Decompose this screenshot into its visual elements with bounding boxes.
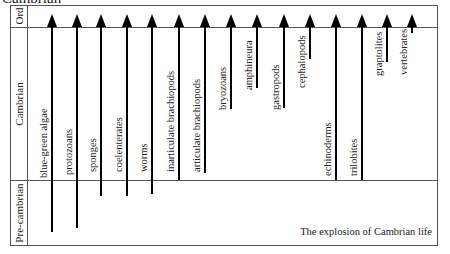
arrow-line-articulate-brachiopods bbox=[204, 25, 206, 173]
taxon-label-worms: worms bbox=[138, 143, 149, 172]
arrow-line-graptolites bbox=[386, 25, 388, 62]
arrowhead-icon bbox=[47, 14, 57, 27]
arrowhead-icon bbox=[252, 14, 262, 27]
arrow-line-protozoans bbox=[76, 25, 78, 228]
arrowhead-icon bbox=[174, 14, 184, 27]
taxon-label-graptolites: graptolites bbox=[373, 32, 384, 76]
arrow-line-amphineura bbox=[256, 25, 258, 88]
arrowhead-icon bbox=[226, 14, 236, 27]
arrow-line-blue-green-algae bbox=[51, 25, 53, 232]
taxon-label-blue-green-algae: blue-green algae bbox=[38, 108, 49, 178]
taxon-label-coelenterates: coelenterates bbox=[113, 117, 124, 172]
arrowhead-icon bbox=[357, 14, 367, 27]
arrowhead-icon bbox=[407, 14, 417, 27]
era-cambrian: Cambrian bbox=[10, 27, 27, 180]
era-ord: Ord bbox=[10, 5, 27, 27]
cambrian-precambrian-divider bbox=[10, 180, 438, 181]
arrow-line-coelenterates bbox=[126, 25, 128, 196]
arrow-line-sponges bbox=[100, 25, 102, 196]
arrow-line-cephalopods bbox=[309, 25, 311, 59]
arrowhead-icon bbox=[200, 14, 210, 27]
diagram-caption: The explosion of Cambrian life bbox=[300, 226, 432, 237]
taxon-label-amphineura: amphineura bbox=[243, 40, 254, 90]
arrow-line-echinoderms bbox=[335, 25, 337, 180]
arrowhead-icon bbox=[305, 14, 315, 27]
arrowhead-icon bbox=[147, 14, 157, 27]
arrow-line-inarticulate-brachiopods bbox=[178, 25, 180, 180]
arrowhead-icon bbox=[382, 14, 392, 27]
taxon-label-inarticulate-brachiopods: inarticulate brachiopods bbox=[165, 71, 176, 172]
taxon-label-gastropods: gastropods bbox=[270, 65, 281, 111]
taxon-label-protozoans: protozoans bbox=[63, 129, 74, 175]
taxon-label-vertebrates: vertebrates bbox=[398, 29, 409, 75]
taxon-label-sponges: sponges bbox=[87, 138, 98, 172]
arrow-line-trilobites bbox=[361, 25, 363, 180]
arrow-line-bryozoans bbox=[230, 25, 232, 109]
arrowhead-icon bbox=[72, 14, 82, 27]
arrow-line-worms bbox=[151, 25, 153, 194]
era-column-divider bbox=[27, 5, 28, 246]
era-pre-cambrian: Pre-cambrian bbox=[10, 180, 27, 246]
era-label: Ord bbox=[13, 7, 25, 24]
arrowhead-icon bbox=[331, 14, 341, 27]
ord-cambrian-divider bbox=[10, 27, 438, 28]
arrowhead-icon bbox=[122, 14, 132, 27]
era-label: Cambrian bbox=[13, 82, 25, 125]
arrowhead-icon bbox=[96, 14, 106, 27]
arrow-line-gastropods bbox=[283, 25, 285, 108]
arrowhead-icon bbox=[279, 14, 289, 27]
taxon-label-cephalopods: cephalopods bbox=[296, 36, 307, 89]
taxon-label-echinoderms: echinoderms bbox=[322, 122, 333, 176]
taxon-label-bryozoans: bryozoans bbox=[217, 67, 228, 110]
era-label: Pre-cambrian bbox=[13, 183, 25, 242]
taxon-label-articulate-brachiopods: articulate brachiopods bbox=[191, 79, 202, 172]
taxon-label-trilobites: trilobites bbox=[348, 139, 359, 176]
